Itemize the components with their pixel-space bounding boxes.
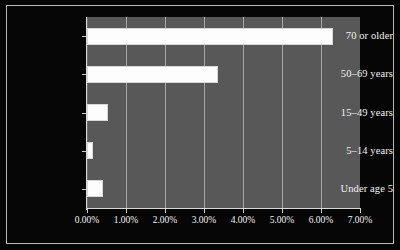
x-tick-mark (321, 209, 322, 213)
x-axis-line (86, 208, 361, 209)
x-tick-mark (87, 209, 88, 213)
x-tick-label: 1.00% (114, 215, 139, 226)
y-tick-mark (82, 189, 87, 190)
x-tick-mark (282, 209, 283, 213)
x-tick-label: 2.00% (153, 215, 178, 226)
x-tick-label: 4.00% (231, 215, 256, 226)
y-tick-label-70-or-older: 70 or older (314, 30, 400, 42)
bar-70-or-older (87, 28, 333, 45)
x-tick-label: 6.00% (309, 215, 334, 226)
y-tick-mark (82, 113, 87, 114)
x-tick-mark (126, 209, 127, 213)
y-tick-label-5-14-years: 5–14 years (314, 145, 400, 157)
y-tick-label-text: 5–14 years (314, 145, 400, 157)
x-tick-mark (204, 209, 205, 213)
chart-figure: Under age 55–14 years15–49 years50–69 ye… (0, 0, 400, 250)
x-tick-label: 5.00% (270, 215, 295, 226)
bar-under-age-5 (87, 180, 103, 197)
y-tick-mark (82, 74, 87, 75)
y-tick-mark (82, 151, 87, 152)
y-tick-label-under-age-5: Under age 5 (314, 183, 400, 195)
x-tick-label: 7.00% (348, 215, 373, 226)
bar-15-49-years (87, 104, 108, 121)
y-tick-label-text: Under age 5 (314, 183, 400, 195)
x-tick-mark (360, 209, 361, 213)
y-tick-label-text: 50–69 years (314, 68, 400, 80)
y-tick-label-text: 70 or older (314, 30, 400, 42)
y-tick-label-50-69-years: 50–69 years (314, 68, 400, 80)
y-tick-label-text: 15–49 years (314, 107, 400, 119)
y-tick-mark (82, 36, 87, 37)
bar-5-14-years (87, 142, 93, 159)
x-tick-mark (243, 209, 244, 213)
bar-50-69-years (87, 66, 218, 83)
y-tick-label-15-49-years: 15–49 years (314, 107, 400, 119)
x-tick-mark (165, 209, 166, 213)
x-tick-label: 3.00% (192, 215, 217, 226)
x-tick-label: 0.00% (75, 215, 100, 226)
